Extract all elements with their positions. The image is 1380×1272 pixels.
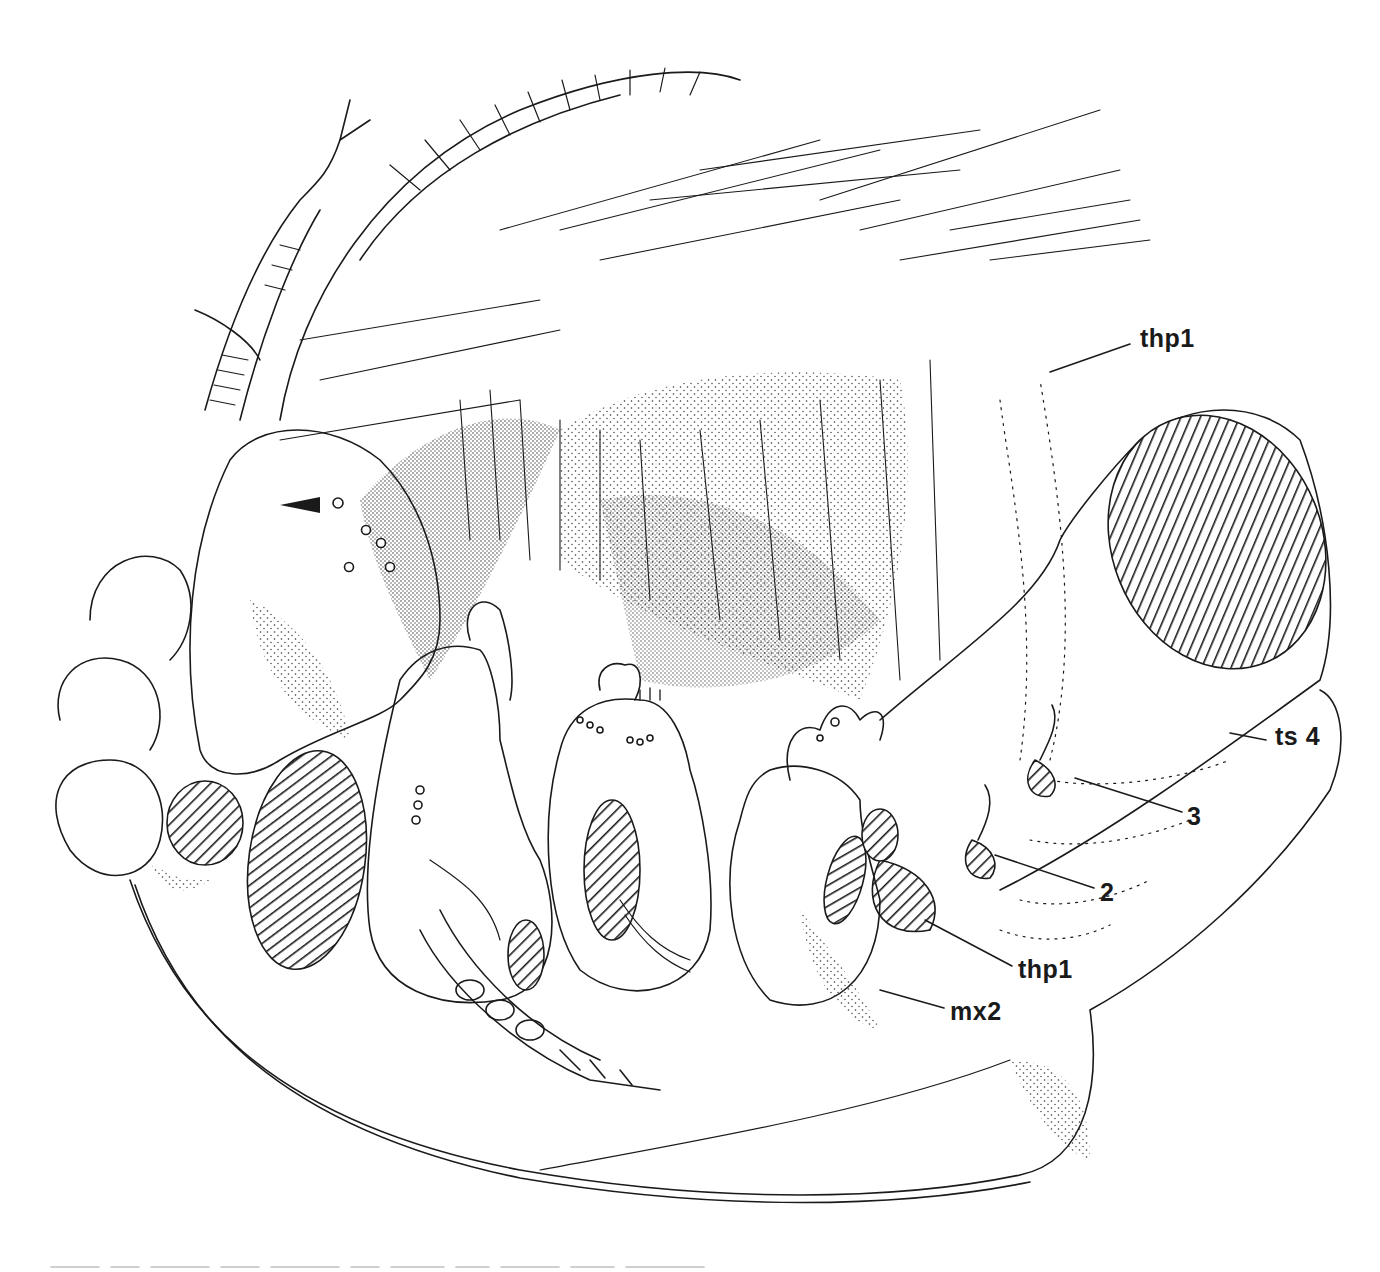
label-ts4: ts 4	[1275, 722, 1320, 751]
figure-caption-cut-off	[50, 1258, 730, 1268]
larva-illustration	[0, 0, 1380, 1272]
label-3: 3	[1187, 802, 1201, 831]
label-mx2: mx2	[950, 997, 1002, 1026]
label-thp1-bottom: thp1	[1018, 955, 1073, 984]
hatched-section-large	[1071, 382, 1363, 702]
hatched-section-left-1	[167, 781, 243, 865]
arrowhead-icon	[280, 497, 320, 513]
label-2: 2	[1100, 878, 1114, 907]
label-thp1-top: thp1	[1140, 324, 1195, 353]
hatched-section-left-2	[234, 743, 379, 977]
